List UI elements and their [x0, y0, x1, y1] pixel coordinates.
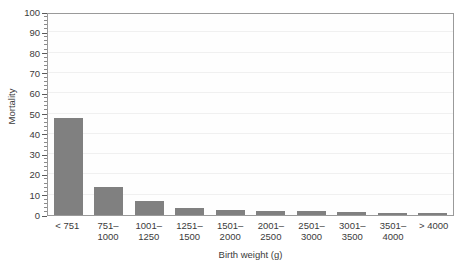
- bar: [378, 213, 407, 215]
- bar-chart-figure: Mortality 0102030405060708090100 < 75175…: [0, 0, 465, 265]
- bar-slot: [210, 14, 251, 215]
- bar-slot: [332, 14, 373, 215]
- bar: [94, 187, 123, 215]
- x-axis-tick-label: 751–1000: [88, 220, 129, 246]
- y-axis-tick-label: 80: [29, 48, 40, 59]
- y-axis-tick-label: 0: [35, 210, 40, 221]
- bar-slot: [251, 14, 292, 215]
- bar-slot: [129, 14, 170, 215]
- bar: [337, 212, 366, 215]
- x-axis-tick-label: 2501–3000: [291, 220, 332, 246]
- bar: [418, 213, 447, 215]
- y-axis-tick-label: 60: [29, 88, 40, 99]
- x-axis-tick-labels: < 751751–10001001–12501251–15001501–2000…: [47, 220, 454, 246]
- y-axis-tick-label: 100: [24, 7, 40, 18]
- bar-slot: [48, 14, 89, 215]
- x-axis-title: Birth weight (g): [47, 249, 454, 260]
- x-axis-tick-label: 1501–2000: [210, 220, 251, 246]
- y-axis-tick-label: 30: [29, 149, 40, 160]
- bar: [175, 208, 204, 215]
- y-axis-tick-label: 90: [29, 27, 40, 38]
- bar: [135, 201, 164, 215]
- bar: [54, 118, 83, 215]
- y-axis-tick-label: 20: [29, 169, 40, 180]
- cropped-chart-title: [0, 0, 465, 5]
- x-axis-tick-label: 3001–3500: [332, 220, 373, 246]
- bar-slot: [372, 14, 413, 215]
- x-axis-tick-label: 1251–1500: [169, 220, 210, 246]
- x-axis-tick-label: 2001–2500: [251, 220, 292, 246]
- bar: [256, 211, 285, 215]
- y-axis-tick-label: 50: [29, 109, 40, 120]
- y-axis-tick-label: 70: [29, 68, 40, 79]
- x-axis-tick-label: 3501–4000: [373, 220, 414, 246]
- bar-slot: [170, 14, 211, 215]
- x-axis-tick-label: > 4000: [413, 220, 454, 246]
- plot-area: [47, 13, 454, 216]
- bar-slot: [89, 14, 130, 215]
- y-axis-tick-label: 40: [29, 129, 40, 140]
- bar: [216, 210, 245, 215]
- x-axis-tick-label: < 751: [47, 220, 88, 246]
- bar-slot: [291, 14, 332, 215]
- x-axis-tick-label: 1001–1250: [128, 220, 169, 246]
- bars-container: [48, 14, 453, 215]
- y-axis-tick-label: 10: [29, 190, 40, 201]
- bar-slot: [413, 14, 454, 215]
- y-axis-ticks: 0102030405060708090100: [0, 13, 47, 216]
- bar: [297, 211, 326, 215]
